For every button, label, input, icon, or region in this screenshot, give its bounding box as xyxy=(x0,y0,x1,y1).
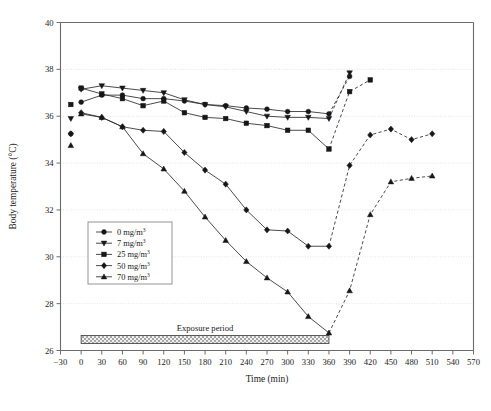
data-point xyxy=(368,132,373,138)
data-point xyxy=(306,243,311,249)
data-point xyxy=(141,96,146,101)
data-point xyxy=(388,179,394,184)
y-tick-label: 40 xyxy=(45,18,54,28)
x-tick-label: 390 xyxy=(343,357,356,367)
baseline-marker-703mg xyxy=(68,143,74,148)
data-point xyxy=(367,212,373,217)
series-line-dashed xyxy=(329,176,432,333)
x-tick-label: 90 xyxy=(139,357,148,367)
x-tick-label: −30 xyxy=(54,357,67,367)
x-tick-label: 360 xyxy=(323,357,336,367)
x-tick-label: 480 xyxy=(405,357,418,367)
x-tick-label: 330 xyxy=(302,357,315,367)
baseline-marker-73mg xyxy=(68,116,74,121)
legend-superscript: 3 xyxy=(143,238,146,244)
x-tick-label: 30 xyxy=(98,357,107,367)
data-point xyxy=(161,166,167,171)
x-tick-label: 450 xyxy=(384,357,397,367)
chart-figure: 2628303234363840−30030609012015018021024… xyxy=(0,0,491,411)
x-ticks: −300306090120150180210240270300330360390… xyxy=(54,351,480,368)
y-axis-title: Body temperature (°C) xyxy=(8,143,19,229)
y-ticks: 2628303234363840 xyxy=(45,18,61,356)
data-point xyxy=(100,92,105,97)
data-point xyxy=(264,275,270,280)
legend-label: 0 mg/m3 xyxy=(117,227,146,237)
data-point xyxy=(368,78,373,83)
legend-superscript: 3 xyxy=(143,227,146,233)
data-point xyxy=(388,126,393,132)
data-point xyxy=(182,110,187,115)
data-point xyxy=(203,115,208,120)
data-point xyxy=(244,121,249,126)
x-tick-label: 210 xyxy=(219,357,232,367)
axes xyxy=(61,23,474,351)
exposure-period-bar xyxy=(81,335,329,343)
x-tick-label: 150 xyxy=(178,357,191,367)
data-point xyxy=(79,86,84,91)
data-point xyxy=(409,137,414,143)
y-tick-label: 28 xyxy=(45,299,54,309)
legend-label: 70 mg/m3 xyxy=(117,272,150,282)
x-tick-label: 300 xyxy=(281,357,294,367)
y-tick-label: 30 xyxy=(45,252,54,262)
data-point xyxy=(265,107,270,112)
data-point xyxy=(161,99,166,104)
data-point xyxy=(285,228,290,234)
x-tick-label: 540 xyxy=(446,357,459,367)
x-tick-label: 180 xyxy=(199,357,212,367)
data-point xyxy=(141,103,146,108)
legend-marker xyxy=(102,252,107,257)
data-point xyxy=(79,100,84,105)
x-tick-label: 240 xyxy=(240,357,253,367)
data-point xyxy=(429,173,435,178)
data-point xyxy=(327,111,332,116)
data-point xyxy=(326,330,332,335)
data-point xyxy=(306,128,311,133)
data-point xyxy=(120,96,125,101)
data-point xyxy=(347,288,353,293)
chart-canvas: 2628303234363840−30030609012015018021024… xyxy=(0,0,491,411)
data-point xyxy=(140,127,145,133)
series-line-dashed xyxy=(329,76,350,113)
series-73mg xyxy=(78,71,352,122)
exposure-period-group: Exposure period xyxy=(81,323,329,343)
legend-superscript: 3 xyxy=(147,249,150,255)
x-axis-title: Time (min) xyxy=(246,374,289,385)
y-tick-label: 36 xyxy=(45,111,54,121)
legend-superscript: 3 xyxy=(147,272,150,278)
series-line-dashed xyxy=(329,73,350,119)
series-line-dashed xyxy=(329,129,432,246)
exposure-period-label: Exposure period xyxy=(177,323,234,333)
data-point xyxy=(327,147,332,152)
x-tick-label: 420 xyxy=(364,357,377,367)
y-tick-label: 32 xyxy=(45,205,54,215)
y-tick-label: 34 xyxy=(45,158,54,168)
baseline-marker-503mg xyxy=(68,131,73,137)
data-point xyxy=(326,243,331,249)
series-group xyxy=(78,71,435,335)
data-point xyxy=(306,109,311,114)
x-tick-label: 270 xyxy=(261,357,274,367)
data-point xyxy=(285,289,291,294)
legend-superscript: 3 xyxy=(147,261,150,267)
x-tick-label: 60 xyxy=(118,357,127,367)
data-point xyxy=(347,89,352,94)
data-point xyxy=(326,116,332,121)
data-point xyxy=(285,109,290,114)
series-03mg xyxy=(79,74,352,116)
y-tick-label: 26 xyxy=(45,346,54,356)
legend-label: 7 mg/m3 xyxy=(117,238,146,248)
x-tick-label: 0 xyxy=(79,357,83,367)
data-point xyxy=(202,167,207,173)
data-point xyxy=(223,116,228,121)
legend-marker xyxy=(102,230,107,235)
legend-label: 25 mg/m3 xyxy=(117,249,150,259)
x-tick-label: 120 xyxy=(157,357,170,367)
y-tick-label: 38 xyxy=(45,64,54,74)
legend-label: 50 mg/m3 xyxy=(117,261,150,271)
legend: 0 mg/m37 mg/m325 mg/m350 mg/m370 mg/m3 xyxy=(88,222,172,284)
data-point xyxy=(430,131,435,137)
x-tick-label: 510 xyxy=(426,357,439,367)
data-point xyxy=(285,128,290,133)
data-point xyxy=(265,123,270,128)
